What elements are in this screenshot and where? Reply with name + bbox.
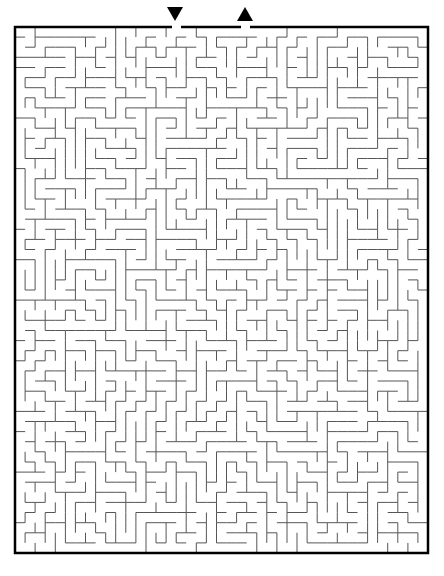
maze-grid: [0, 0, 444, 576]
maze-walls: [15, 27, 428, 553]
